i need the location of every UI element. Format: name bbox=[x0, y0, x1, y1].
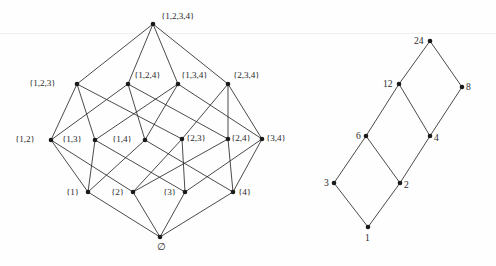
hasse-node[interactable] bbox=[231, 190, 236, 195]
node-label: {1,2} bbox=[15, 135, 35, 144]
edges-layer bbox=[51, 24, 462, 237]
hasse-edge bbox=[430, 87, 462, 136]
node-label: {1,2,3,4} bbox=[161, 12, 194, 21]
node-label: {3,4} bbox=[266, 134, 286, 143]
node-label: {1,2,4} bbox=[134, 71, 161, 80]
hasse-edge bbox=[182, 139, 185, 192]
hasse-node[interactable] bbox=[226, 137, 231, 142]
hasse-edge bbox=[228, 139, 233, 192]
hasse-edge bbox=[88, 140, 95, 192]
node-label: 3 bbox=[324, 178, 329, 188]
hasse-edge bbox=[133, 192, 160, 237]
hasse-edge bbox=[334, 183, 368, 227]
node-label: 1 bbox=[365, 233, 370, 243]
hasse-node[interactable] bbox=[260, 137, 265, 142]
hasse-node[interactable] bbox=[366, 225, 371, 230]
hasse-node[interactable] bbox=[428, 39, 433, 44]
hasse-edge bbox=[400, 136, 430, 183]
node-label: {2,3} bbox=[186, 134, 206, 143]
node-label: ∅ bbox=[157, 242, 166, 252]
hasse-edge bbox=[334, 136, 366, 183]
hasse-edge bbox=[51, 84, 128, 140]
node-label: {2,4} bbox=[231, 134, 251, 143]
hasse-edge bbox=[88, 140, 145, 192]
hasse-node[interactable] bbox=[428, 134, 433, 139]
node-label: 6 bbox=[356, 131, 361, 141]
hasse-node[interactable] bbox=[49, 138, 54, 143]
hasse-edge bbox=[430, 41, 462, 87]
node-label: {1,4} bbox=[112, 135, 132, 144]
node-label: 24 bbox=[414, 36, 424, 46]
hasse-node[interactable] bbox=[398, 181, 403, 186]
hasse-node[interactable] bbox=[131, 190, 136, 195]
node-label: {2} bbox=[111, 188, 124, 197]
hasse-edge bbox=[51, 140, 88, 192]
hasse-edge bbox=[88, 192, 160, 237]
hasse-edge bbox=[399, 41, 430, 84]
hasse-node[interactable] bbox=[93, 138, 98, 143]
hasse-edge bbox=[145, 140, 233, 192]
hasse-node[interactable] bbox=[183, 190, 188, 195]
hasse-edge bbox=[182, 84, 228, 139]
hasse-node[interactable] bbox=[126, 82, 131, 87]
hasse-edge bbox=[366, 136, 400, 183]
hasse-edge bbox=[160, 192, 233, 237]
hasse-edge bbox=[160, 192, 185, 237]
hasse-node[interactable] bbox=[158, 235, 163, 240]
node-label: 2 bbox=[404, 180, 409, 190]
node-label: {3} bbox=[163, 188, 176, 197]
node-label: {1} bbox=[66, 188, 79, 197]
hasse-edge bbox=[399, 84, 430, 136]
node-label: 4 bbox=[434, 133, 439, 143]
hasse-edge bbox=[366, 84, 399, 136]
hasse-node[interactable] bbox=[460, 85, 465, 90]
figure-canvas: {1,2,3,4}{1,2,3}{1,2,4}{1,3,4}{2,3,4}{1,… bbox=[0, 0, 496, 266]
hasse-node[interactable] bbox=[75, 82, 80, 87]
hasse-edge bbox=[368, 183, 400, 227]
node-label: {4} bbox=[238, 188, 251, 197]
hasse-edge bbox=[128, 84, 228, 139]
hasse-edge bbox=[133, 139, 228, 192]
hasse-edge bbox=[185, 139, 262, 192]
hasse-node[interactable] bbox=[176, 82, 181, 87]
node-label: 12 bbox=[383, 79, 393, 89]
hasse-node[interactable] bbox=[332, 181, 337, 186]
hasse-node[interactable] bbox=[364, 134, 369, 139]
hasse-edge bbox=[51, 140, 133, 192]
node-label: 8 bbox=[466, 82, 471, 92]
hasse-edge bbox=[228, 84, 262, 139]
hasse-node[interactable] bbox=[397, 82, 402, 87]
hasse-node[interactable] bbox=[143, 138, 148, 143]
node-label: {1,2,3} bbox=[29, 79, 56, 88]
hasse-node[interactable] bbox=[180, 137, 185, 142]
node-label: {2,3,4} bbox=[233, 71, 260, 80]
node-label: {1,3} bbox=[62, 135, 82, 144]
hasse-node[interactable] bbox=[226, 82, 231, 87]
hasse-edge bbox=[145, 84, 178, 140]
hasse-node[interactable] bbox=[86, 190, 91, 195]
hasse-edge bbox=[51, 84, 77, 140]
hasse-edge bbox=[178, 84, 262, 139]
hasse-node[interactable] bbox=[151, 22, 156, 27]
hasse-edge bbox=[95, 84, 178, 140]
node-label: {1,3,4} bbox=[181, 71, 208, 80]
hasse-edge bbox=[233, 139, 262, 192]
